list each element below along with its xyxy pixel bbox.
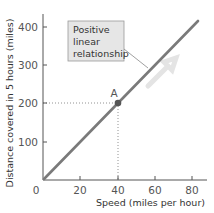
y-tick-300: 300: [18, 59, 38, 71]
callout-line-1: Positive: [73, 24, 110, 35]
x-tick-20: 20: [73, 184, 86, 196]
direction-arrow-icon: [148, 58, 176, 86]
y-axis-title: Distance covered in 5 hours (miles): [4, 19, 15, 188]
x-tick-60: 60: [148, 184, 161, 196]
x-tick-80: 80: [185, 184, 198, 196]
y-tick-400: 400: [18, 21, 38, 33]
y-tick-100: 100: [18, 136, 38, 148]
point-a-label: A: [110, 87, 118, 99]
callout-line-2: linear: [73, 36, 100, 47]
x-axis-title: Speed (miles per hour): [96, 197, 205, 208]
y-tick-200: 200: [18, 97, 38, 109]
point-a-marker: [115, 100, 122, 107]
chart: Positive linear relationship 400 300 200…: [0, 0, 214, 213]
callout-line-3: relationship: [73, 48, 129, 59]
x-tick-0: 0: [33, 184, 40, 196]
x-tick-40: 40: [111, 184, 124, 196]
